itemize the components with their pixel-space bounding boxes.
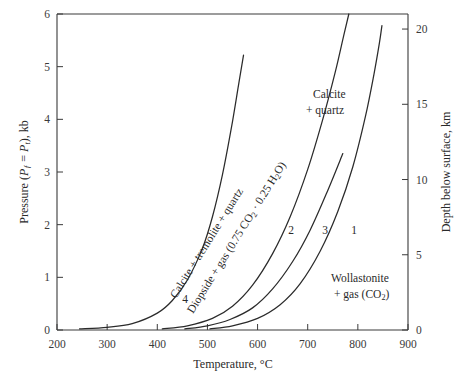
left-tick-label: 2 xyxy=(44,219,50,231)
right-tick-label: 10 xyxy=(416,174,428,186)
annotation-diopside-gas: Diopside + gas (0.75 CO2 · 0.25 H2O) xyxy=(185,159,290,316)
curve-label-2: 2 xyxy=(288,224,294,236)
bottom-tick-label: 400 xyxy=(149,338,167,350)
x-axis-title: Temperature, °C xyxy=(193,357,272,371)
svg-text:Diopside + gas (0.75 CO2 · 0.2: Diopside + gas (0.75 CO2 · 0.25 H2O) xyxy=(185,159,290,316)
right-tick-label: 20 xyxy=(416,23,428,35)
svg-text:Depth below surface, km: Depth below surface, km xyxy=(439,111,453,232)
bottom-tick-label: 800 xyxy=(349,338,367,350)
annotation-wollastonite-gas: Wollastonite + gas (CO2) xyxy=(331,272,389,302)
reaction-curve-4 xyxy=(80,55,244,329)
left-tick-label: 4 xyxy=(44,113,50,125)
left-axis-ticks: 0123456 xyxy=(44,8,63,336)
svg-text:Temperature, °C: Temperature, °C xyxy=(193,357,272,371)
pressure-temperature-phase-diagram: 0123456 200300400500600700800900 0510152… xyxy=(0,0,461,381)
left-tick-label: 3 xyxy=(44,166,50,178)
left-tick-label: 5 xyxy=(44,61,50,73)
bottom-tick-label: 200 xyxy=(48,338,66,350)
svg-text:+ quartz: + quartz xyxy=(306,104,344,117)
bottom-tick-label: 600 xyxy=(249,338,267,350)
bottom-tick-label: 900 xyxy=(399,338,417,350)
bottom-tick-label: 700 xyxy=(299,338,317,350)
svg-text:+ gas (CO2): + gas (CO2) xyxy=(334,288,389,302)
figure-container: 0123456 200300400500600700800900 0510152… xyxy=(0,0,461,381)
left-tick-label: 0 xyxy=(44,324,50,336)
svg-text:Calcite: Calcite xyxy=(313,88,346,100)
reaction-curve-2 xyxy=(162,14,349,329)
left-tick-label: 6 xyxy=(44,8,50,20)
svg-text:Wollastonite: Wollastonite xyxy=(331,272,389,284)
right-tick-label: 0 xyxy=(416,324,422,336)
right-tick-label: 15 xyxy=(416,98,428,110)
right-tick-label: 5 xyxy=(416,249,422,261)
left-tick-label: 1 xyxy=(44,271,50,283)
bottom-tick-label: 300 xyxy=(99,338,117,350)
svg-text:Pressure (Pƒ = Pt), kb: Pressure (Pƒ = Pt), kb xyxy=(17,120,32,224)
curve-label-1: 1 xyxy=(351,224,357,236)
y2-axis-title: Depth below surface, km xyxy=(439,111,453,232)
annotation-calcite-quartz: Calcite + quartz xyxy=(306,88,346,117)
bottom-tick-label: 500 xyxy=(199,338,217,350)
curve-label-3: 3 xyxy=(322,224,328,236)
y-axis-title: Pressure (Pƒ = Pt), kb xyxy=(17,120,32,224)
right-axis-ticks: 05101520 xyxy=(402,23,428,336)
